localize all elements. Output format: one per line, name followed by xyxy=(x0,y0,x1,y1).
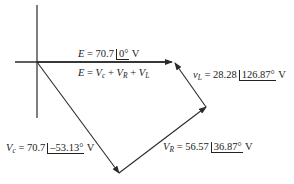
vl-angle: 126.87° xyxy=(239,70,276,81)
vc-magnitude: 70.7 xyxy=(27,142,45,153)
vc-angle: –53.13° xyxy=(47,143,84,154)
kvl-equation-label: E = Vc + VR + VL xyxy=(78,67,149,82)
vr-phasor-arrow xyxy=(119,107,206,173)
vr-magnitude: 56.57 xyxy=(185,141,209,152)
vr-phasor-label: VR = 56.5736.87° V xyxy=(163,141,253,156)
e-magnitude: 70.7 xyxy=(96,48,114,59)
phasor-diagram: E = 70.70° V E = Vc + VR + VL vL = 28.28… xyxy=(0,0,294,184)
vl-magnitude: 28.28 xyxy=(213,69,237,80)
e-angle: 0° xyxy=(116,49,129,60)
e-phasor-label: E = 70.70° V xyxy=(78,48,139,60)
vr-angle: 36.87° xyxy=(211,142,243,153)
vl-phasor-label: vL = 28.28126.87° V xyxy=(193,69,286,84)
vc-phasor-label: Vc = 70.7–53.13° V xyxy=(6,142,94,157)
